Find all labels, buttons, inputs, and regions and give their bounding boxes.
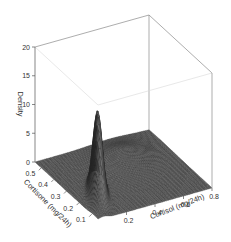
y-tick-label: 0.2 — [63, 205, 73, 212]
surface-plot: 05101520 0.10.20.30.40.5 0.20.40.60.8 De… — [0, 0, 231, 242]
z-axis-title: Density — [16, 91, 25, 116]
y-tick-label: 0.3 — [51, 193, 61, 200]
z-tick-label: 5 — [26, 130, 30, 137]
z-tick-label: 15 — [22, 72, 30, 79]
y-tick-label: 0.1 — [76, 216, 86, 223]
y-tick-label: 0.5 — [26, 170, 36, 177]
z-tick-label: 0 — [26, 159, 30, 166]
x-tick-label: 0.2 — [124, 217, 134, 224]
x-tick-label: 0.8 — [209, 193, 219, 200]
z-tick-label: 20 — [22, 44, 30, 51]
